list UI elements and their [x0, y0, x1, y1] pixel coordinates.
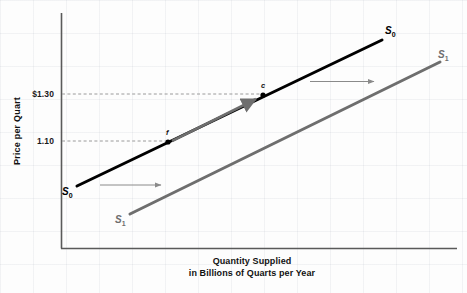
- s1-sub-upper: 1: [445, 55, 449, 62]
- curve-label-s1-upper: S1: [438, 49, 449, 62]
- supply-shift-chart: $1.30 1.10 Price per Quart Quantity Supp…: [0, 0, 467, 293]
- s1-sub-lower: 1: [122, 220, 126, 227]
- s0-sub-upper: 0: [392, 31, 396, 38]
- s1-letter-lower: S: [115, 214, 122, 225]
- s0-sub-lower: 0: [69, 192, 73, 199]
- chart-canvas: [0, 0, 467, 293]
- s1-letter-upper: S: [438, 49, 445, 60]
- point-label-c: c: [261, 81, 265, 90]
- movement-arrow-f-to-c: [172, 99, 256, 141]
- s0-letter-lower: S: [62, 186, 69, 197]
- curve-label-s0-upper: S0: [385, 25, 396, 38]
- s0-letter-upper: S: [385, 25, 392, 36]
- x-axis-title-line1: Quantity Supplied: [213, 256, 292, 266]
- curve-label-s0-lower: S0: [62, 186, 73, 199]
- data-point-f: [165, 139, 170, 144]
- y-axis-title: Price per Quart: [12, 97, 22, 165]
- x-axis-title-line2: in Billions of Quarts per Year: [189, 268, 315, 278]
- point-label-f: f: [166, 128, 169, 137]
- x-axis-title: Quantity Supplied in Billions of Quarts …: [142, 256, 362, 279]
- curve-label-s1-lower: S1: [115, 214, 126, 227]
- data-point-c: [260, 92, 265, 97]
